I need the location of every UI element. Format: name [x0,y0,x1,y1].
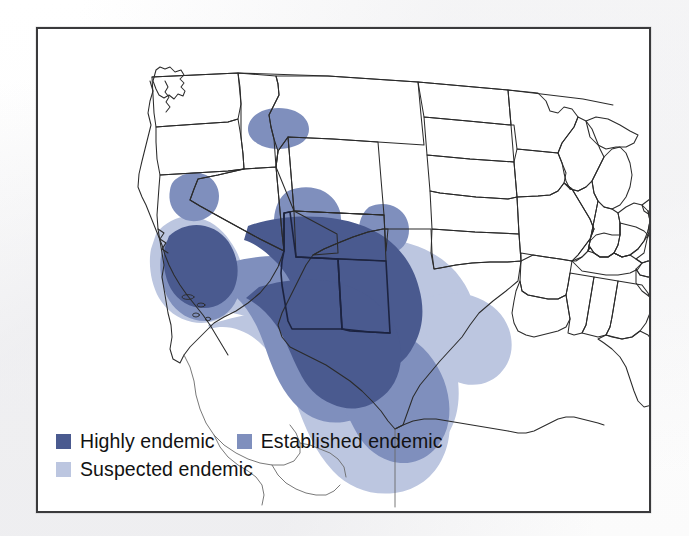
legend-label-highly-endemic: Highly endemic [80,432,215,452]
state-michigan-lower [592,147,632,209]
map-frame: Highly endemic Established endemic Suspe… [36,27,651,513]
legend-label-suspected-endemic: Suspected endemic [80,460,253,480]
state-north-dakota [418,82,511,125]
state-oregon [156,119,244,175]
state-south-dakota [424,117,514,162]
legend-label-established-endemic: Established endemic [261,432,443,452]
highly-endemic-swatch [56,434,71,449]
state-minnesota [508,90,578,153]
state-indiana [588,201,620,257]
state-florida [598,331,649,407]
state-illinois [564,181,598,261]
state-louisiana [512,281,570,337]
figure-page: Highly endemic Established endemic Suspe… [0,0,689,536]
legend-row-2: Suspected endemic [56,460,526,480]
state-georgia [606,281,649,339]
state-arkansas [520,255,572,299]
state-iowa [514,149,566,197]
established-endemic-swatch [237,434,252,449]
legend-entry-established-endemic[interactable]: Established endemic [237,432,443,452]
state-nebraska [427,155,517,199]
outline-canada-border [152,73,613,105]
state-tennessee [572,247,642,275]
state-alabama [582,277,618,337]
state-kansas [430,191,519,234]
state-kentucky [588,223,648,257]
map-legend: Highly endemic Established endemic Suspe… [56,432,526,487]
legend-entry-suspected-endemic[interactable]: Suspected endemic [56,460,253,480]
legend-entry-highly-endemic[interactable]: Highly endemic [56,432,215,452]
legend-row-1: Highly endemic Established endemic [56,432,526,452]
outline-west-coast [153,67,185,99]
suspected-endemic-swatch [56,462,71,477]
